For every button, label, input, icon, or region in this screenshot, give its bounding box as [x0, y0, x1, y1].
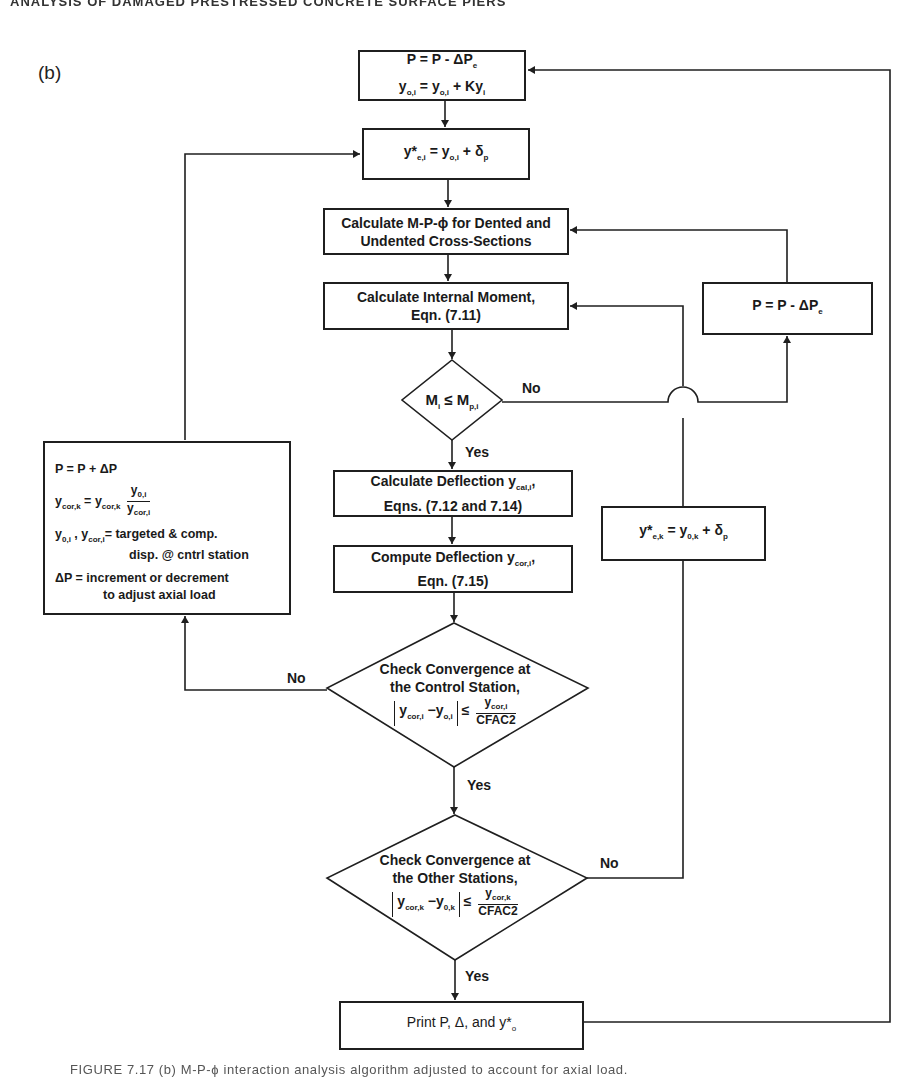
decision-moment-text: Mi ≤ Mp,i [404, 391, 500, 416]
edge-label-other-no: No [600, 855, 619, 871]
decision-control-text: Check Convergence at the Control Station… [360, 660, 550, 727]
figure-caption: FIGURE 7.17 (b) M-P-ϕ interaction analys… [70, 1062, 870, 1077]
calc-deflection-box: Calculate Deflection ycal,i, Eqns. (7.12… [333, 470, 573, 517]
adjust-load-left-box: P = P + ΔP ycor,k = ycor,k y0,iycor,i y0… [43, 441, 291, 615]
compute-deflection-box: Compute Deflection ycor,i, Eqn. (7.15) [333, 545, 573, 593]
calc-moment-box: Calculate Internal Moment, Eqn. (7.11) [323, 282, 569, 330]
edge-label-moment-no: No [522, 380, 541, 396]
decision-other-text: Check Convergence at the Other Stations,… [360, 851, 550, 918]
update-load-line1: P = P - ΔPe [407, 49, 477, 76]
edge-label-moment-yes: Yes [465, 444, 489, 460]
edge-label-control-yes: Yes [467, 777, 491, 793]
ratio-fraction: y0,iycor,i [127, 484, 150, 520]
print-results-box: Print P, Δ, and y*o [339, 1001, 584, 1050]
reduce-load-right-box: P = P - ΔPe [702, 282, 873, 335]
edge-label-control-no: No [287, 670, 306, 686]
reset-deflection-right-box: y*e,k = y0,k + δp [601, 506, 766, 561]
calc-mpphi-box: Calculate M-P-ϕ for Dented and Undented … [323, 208, 569, 255]
update-load-line2: yo,i = yo,i + Kyi [399, 76, 485, 103]
initial-deflection-box: y*e,i = yo,i + δp [362, 128, 530, 180]
update-load-top-box: P = P - ΔPe yo,i = yo,i + Kyi [358, 50, 526, 101]
edge-label-other-yes: Yes [465, 968, 489, 984]
